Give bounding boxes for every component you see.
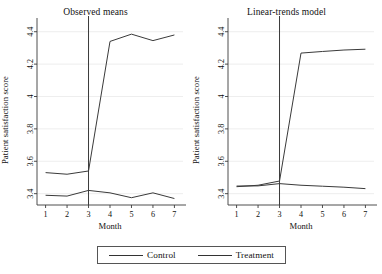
series-line-treatment bbox=[237, 49, 366, 186]
x-axis-title: Month bbox=[290, 221, 314, 231]
legend-line-swatch-control bbox=[109, 255, 143, 256]
x-axis-tick-label-5: 6 bbox=[342, 210, 346, 219]
panel-linear-trends-model: Linear-trends model Patient satisfaction… bbox=[191, 0, 382, 240]
plot-area-right: 3.43.63.844.24.41234567Month bbox=[191, 0, 382, 240]
x-axis-tick-label-0: 1 bbox=[44, 210, 48, 219]
y-axis-tick-label-1: 3.6 bbox=[26, 156, 35, 166]
plot-area-left: 3.43.63.844.24.41234567Month bbox=[0, 0, 191, 240]
x-axis-tick-label-1: 2 bbox=[256, 210, 260, 219]
legend-container: Control Treatment bbox=[0, 240, 382, 274]
legend-line-swatch-treatment bbox=[198, 255, 232, 256]
legend-box: Control Treatment bbox=[97, 246, 286, 264]
x-axis-title: Month bbox=[99, 221, 123, 231]
y-axis-tick-label-4: 4.2 bbox=[217, 59, 226, 69]
y-axis-tick-label-3: 4 bbox=[26, 94, 35, 98]
series-line-treatment bbox=[46, 34, 175, 174]
x-axis-tick-label-1: 2 bbox=[65, 210, 69, 219]
y-axis-tick-label-2: 3.8 bbox=[26, 124, 35, 134]
legend-item-treatment: Treatment bbox=[198, 250, 274, 260]
x-axis-tick-label-5: 6 bbox=[151, 210, 155, 219]
x-axis-tick-label-3: 4 bbox=[299, 210, 303, 219]
panel-container: Observed means Patient satisfaction scor… bbox=[0, 0, 382, 240]
y-axis-tick-label-5: 4.4 bbox=[26, 27, 35, 37]
x-axis-tick-label-0: 1 bbox=[235, 210, 239, 219]
x-axis-tick-label-2: 3 bbox=[86, 210, 90, 219]
y-axis-tick-label-4: 4.2 bbox=[26, 59, 35, 69]
legend-label-control: Control bbox=[147, 250, 176, 260]
x-axis-tick-label-4: 5 bbox=[320, 210, 324, 219]
y-axis-tick-label-2: 3.8 bbox=[217, 124, 226, 134]
series-line-control bbox=[46, 190, 175, 198]
x-axis-tick-label-6: 7 bbox=[363, 210, 367, 219]
legend-item-control: Control bbox=[109, 250, 176, 260]
x-axis-tick-label-2: 3 bbox=[277, 210, 281, 219]
y-axis-tick-label-5: 4.4 bbox=[217, 27, 226, 37]
y-axis-tick-label-3: 4 bbox=[217, 94, 226, 98]
y-axis-tick-label-1: 3.6 bbox=[217, 156, 226, 166]
y-axis-tick-label-0: 3.4 bbox=[26, 189, 35, 199]
x-axis-tick-label-3: 4 bbox=[108, 210, 112, 219]
series-line-control bbox=[237, 184, 366, 189]
y-axis-tick-label-0: 3.4 bbox=[217, 189, 226, 199]
x-axis-tick-label-6: 7 bbox=[172, 210, 176, 219]
figure-two-panel-line-chart: Observed means Patient satisfaction scor… bbox=[0, 0, 382, 274]
legend-label-treatment: Treatment bbox=[236, 250, 274, 260]
x-axis-tick-label-4: 5 bbox=[129, 210, 133, 219]
panel-observed-means: Observed means Patient satisfaction scor… bbox=[0, 0, 191, 240]
